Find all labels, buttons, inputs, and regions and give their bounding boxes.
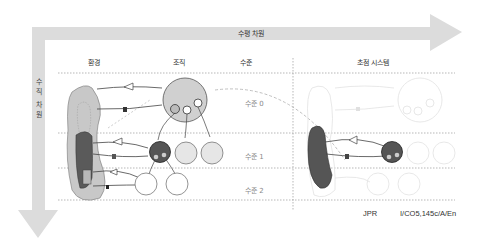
left-connections [93, 87, 162, 186]
horizontal-axis-label: 수평 차원 [238, 28, 264, 38]
focal-subunit [387, 155, 392, 160]
square-marker [123, 107, 127, 112]
org-level2-circle [135, 173, 157, 195]
arrow-marker [349, 136, 357, 144]
square-marker [112, 154, 116, 159]
org-subunit [154, 155, 159, 160]
environment-level2-box [83, 170, 91, 184]
org-level1-circle [175, 142, 197, 164]
level-label-0: 수준 0 [245, 98, 264, 108]
square-marker [345, 154, 349, 159]
footer-code: I/CO5,145c/A/En [400, 209, 456, 218]
focal-environment-dark [308, 126, 332, 188]
level-label-1: 수준 1 [245, 151, 264, 161]
vertical-label-char: 원 [34, 110, 44, 120]
focal-subunit [395, 153, 400, 158]
org-level1-dark-circle [150, 142, 171, 163]
org-level1-circle [201, 142, 223, 164]
column-header-level: 수준 [240, 57, 252, 67]
environment-shape [67, 86, 105, 200]
column-header-control-system: 초점 시스템 [357, 57, 389, 67]
env-dashed-link [108, 100, 150, 128]
vertical-label-char: 수 [34, 77, 44, 87]
org-subunit [162, 153, 167, 158]
arrow-marker [110, 169, 117, 175]
arrow-marker [113, 138, 122, 145]
vertical-axis-label: 수 직 차 원 [34, 77, 44, 120]
vertical-label-char: 차 [34, 100, 44, 110]
org-subunit [183, 106, 191, 114]
square-marker [106, 185, 109, 189]
faded-marker [356, 107, 360, 111]
org-subunit [194, 99, 202, 107]
arrow-marker [124, 83, 133, 90]
vsm-diagram: 수평 차원 수 직 차 원 환경 조직 수준 초점 시스템 수준 0 수준 1 … [0, 0, 491, 241]
footer-author: JPR [363, 209, 377, 218]
focal-org-dark-circle [382, 142, 403, 163]
column-header-organization: 조직 [173, 57, 185, 67]
org-subunit [171, 105, 180, 114]
level-label-2: 수준 2 [245, 185, 264, 195]
column-header-environment: 환경 [88, 57, 100, 67]
vertical-label-char: 직 [34, 87, 44, 97]
org-level2-circle [166, 173, 188, 195]
